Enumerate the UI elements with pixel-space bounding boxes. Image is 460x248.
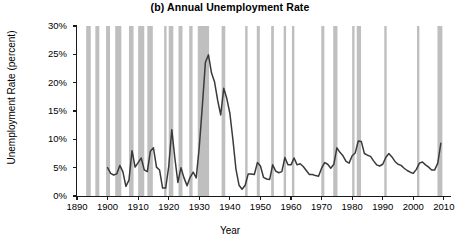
x-tick-mark bbox=[290, 196, 291, 200]
recession-band bbox=[86, 26, 91, 196]
recession-band bbox=[321, 26, 324, 196]
x-tick-mark bbox=[168, 196, 169, 200]
x-tick-mark bbox=[260, 196, 261, 200]
recession-band bbox=[437, 26, 442, 196]
recession-band bbox=[138, 26, 144, 196]
recession-bands-group bbox=[86, 26, 442, 196]
x-tick-mark bbox=[199, 196, 200, 200]
y-tick-label: 30% bbox=[27, 20, 67, 31]
plot-svg bbox=[77, 26, 450, 196]
y-tick-label: 25% bbox=[27, 48, 67, 59]
x-tick-mark bbox=[229, 196, 230, 200]
y-tick-mark bbox=[73, 25, 77, 26]
recession-band bbox=[95, 26, 99, 196]
recession-band bbox=[169, 26, 174, 196]
chart-title: (b) Annual Unemployment Rate bbox=[0, 1, 460, 13]
x-axis-label: Year bbox=[0, 225, 460, 236]
y-tick-mark bbox=[73, 110, 77, 111]
y-tick-mark bbox=[73, 54, 77, 55]
plot-area bbox=[77, 26, 450, 196]
x-tick-mark bbox=[352, 196, 353, 200]
y-tick-mark bbox=[73, 139, 77, 140]
x-tick-label: 2010 bbox=[424, 201, 460, 212]
recession-band bbox=[384, 26, 386, 196]
x-axis-line bbox=[76, 196, 451, 197]
recession-band bbox=[284, 26, 286, 196]
y-tick-label: 20% bbox=[27, 77, 67, 88]
chart-figure: (b) Annual Unemployment Rate Unemploymen… bbox=[0, 0, 460, 248]
y-tick-label: 15% bbox=[27, 105, 67, 116]
x-tick-mark bbox=[443, 196, 444, 200]
unemployment-rate-line bbox=[108, 55, 441, 189]
y-tick-mark bbox=[73, 82, 77, 83]
recession-band bbox=[198, 26, 209, 196]
x-tick-mark bbox=[382, 196, 383, 200]
recession-band bbox=[164, 26, 166, 196]
x-tick-mark bbox=[138, 196, 139, 200]
unemployment-line-group bbox=[108, 55, 441, 189]
recession-band bbox=[292, 26, 294, 196]
recession-band bbox=[417, 26, 419, 196]
x-tick-mark bbox=[76, 196, 77, 200]
recession-band bbox=[222, 26, 226, 196]
y-tick-label: 5% bbox=[27, 162, 67, 173]
recession-band bbox=[189, 26, 192, 196]
x-tick-mark bbox=[321, 196, 322, 200]
recession-band bbox=[352, 26, 354, 196]
x-tick-mark bbox=[107, 196, 108, 200]
x-tick-mark bbox=[413, 196, 414, 200]
recession-band bbox=[245, 26, 247, 196]
y-tick-mark bbox=[73, 167, 77, 168]
recession-band bbox=[257, 26, 260, 196]
recession-band bbox=[357, 26, 361, 196]
y-tick-label: 10% bbox=[27, 133, 67, 144]
recession-band bbox=[333, 26, 337, 196]
y-axis-label: Unemployment Rate (percent) bbox=[6, 18, 17, 178]
y-tick-label: 0% bbox=[27, 190, 67, 201]
